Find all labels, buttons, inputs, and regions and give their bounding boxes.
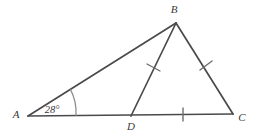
angle-label-group: 28°	[45, 104, 61, 115]
vertex-label-d: D	[126, 120, 135, 132]
angle-arc-group	[70, 89, 76, 115]
vertex-label-c: C	[238, 111, 246, 123]
angle-label-a: 28°	[45, 104, 61, 115]
triangle-figure-canvas: A B C D 28°	[0, 0, 256, 132]
segment-group	[28, 23, 233, 116]
vertex-label-a: A	[12, 108, 20, 120]
congruence-tick-group	[147, 61, 212, 121]
segment-bc	[176, 23, 233, 114]
angle-arc-a	[70, 89, 76, 115]
vertex-label-b: B	[171, 3, 178, 15]
geometry-diagram: A B C D 28°	[0, 0, 256, 132]
